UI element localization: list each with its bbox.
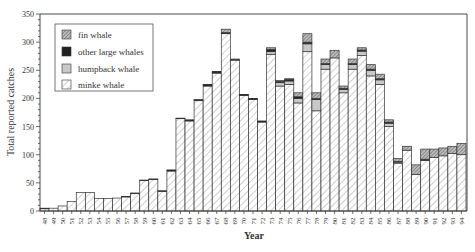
bar-75 xyxy=(285,79,294,211)
x-tick-label: 80 xyxy=(331,217,339,225)
bar-segment xyxy=(339,89,348,92)
legend-swatch-other-large-whales xyxy=(62,47,71,56)
y-tick-label: 250 xyxy=(22,66,34,75)
bar-segment xyxy=(131,194,140,211)
x-tick-label: 94 xyxy=(458,217,466,225)
x-tick-label: 50 xyxy=(59,217,67,225)
bar-segment xyxy=(348,59,357,64)
x-tick-label: 84 xyxy=(367,217,375,225)
bar-segment xyxy=(239,96,248,211)
x-tick-label: 54 xyxy=(95,217,103,225)
bar-segment xyxy=(267,52,276,55)
bar-82 xyxy=(348,59,357,211)
bar-segment xyxy=(375,80,384,85)
x-tick-label: 77 xyxy=(304,217,312,225)
bar-segment xyxy=(40,208,49,209)
bar-61 xyxy=(158,191,167,211)
bar-segment xyxy=(276,83,285,86)
x-tick-label: 88 xyxy=(404,217,412,225)
bar-94 xyxy=(457,143,466,211)
bar-segment xyxy=(212,71,221,72)
bar-segment xyxy=(366,65,375,70)
bar-92 xyxy=(439,148,448,211)
bar-segment xyxy=(176,118,185,119)
bar-54 xyxy=(94,199,103,211)
bar-segment xyxy=(448,146,457,153)
bar-segment xyxy=(321,65,330,70)
bar-segment xyxy=(158,191,167,211)
x-tick-label: 83 xyxy=(358,217,366,225)
x-tick-label: 87 xyxy=(395,217,403,225)
bar-88 xyxy=(403,146,412,211)
bar-55 xyxy=(103,199,112,211)
bar-segment xyxy=(248,98,257,99)
x-tick-label: 73 xyxy=(268,217,276,225)
bar-81 xyxy=(339,86,348,211)
bar-84 xyxy=(366,65,375,211)
bar-segment xyxy=(248,100,257,211)
x-tick-label: 79 xyxy=(322,217,330,225)
bar-segment xyxy=(403,150,412,211)
bar-segment xyxy=(239,94,248,95)
bar-segment xyxy=(67,201,76,211)
x-tick-label: 67 xyxy=(213,217,221,225)
bar-segment xyxy=(149,179,158,211)
bar-segment xyxy=(230,59,239,60)
bar-segment xyxy=(421,149,430,159)
bar-segment xyxy=(113,198,122,211)
bar-86 xyxy=(384,120,393,211)
bar-segment xyxy=(357,51,366,56)
x-tick-label: 61 xyxy=(159,217,167,225)
bar-segment xyxy=(258,121,267,122)
bar-83 xyxy=(357,48,366,211)
bar-segment xyxy=(393,159,402,162)
bar-segment xyxy=(122,196,131,197)
bar-segment xyxy=(439,156,448,211)
bar-segment xyxy=(267,48,276,50)
bar-segment xyxy=(366,70,375,76)
bar-segment xyxy=(412,174,421,211)
x-tick-label: 52 xyxy=(77,217,85,225)
bar-segment xyxy=(430,158,439,211)
bar-segment xyxy=(439,148,448,156)
bar-60 xyxy=(149,179,158,211)
bar-90 xyxy=(421,149,430,211)
x-tick-label: 74 xyxy=(277,217,285,225)
bar-segment xyxy=(384,123,393,126)
bar-segment xyxy=(194,100,203,101)
bar-segment xyxy=(330,51,339,58)
bar-71 xyxy=(248,98,257,211)
x-tick-label: 65 xyxy=(195,217,203,225)
x-tick-label: 92 xyxy=(440,217,448,225)
x-tick-label: 63 xyxy=(177,217,185,225)
bar-segment xyxy=(375,84,384,211)
bar-segment xyxy=(276,86,285,211)
x-tick-label: 64 xyxy=(186,217,194,225)
bar-segment xyxy=(321,59,330,64)
y-tick-label: 50 xyxy=(26,179,34,188)
bar-segment xyxy=(384,127,393,211)
bar-segment xyxy=(321,69,330,211)
bar-segment xyxy=(330,58,339,211)
x-tick-label: 53 xyxy=(86,217,94,225)
x-tick-label: 49 xyxy=(50,217,58,225)
bar-segment xyxy=(149,179,158,180)
x-tick-label: 90 xyxy=(422,217,430,225)
y-axis-title: Total reported catches xyxy=(5,68,16,156)
bar-63 xyxy=(176,118,185,211)
bar-segment xyxy=(421,160,430,211)
bar-segment xyxy=(194,101,203,211)
x-tick-label: 62 xyxy=(168,217,176,225)
bar-segment xyxy=(185,120,194,121)
bar-segment xyxy=(230,60,239,211)
bar-segment xyxy=(167,170,176,171)
bar-segment xyxy=(158,191,167,192)
bar-52 xyxy=(76,192,85,211)
x-tick-label: 81 xyxy=(340,217,348,225)
bar-segment xyxy=(294,93,303,97)
bar-segment xyxy=(403,146,412,150)
x-tick-label: 78 xyxy=(313,217,321,225)
bar-80 xyxy=(330,51,339,211)
x-tick-label: 71 xyxy=(250,217,258,225)
bar-87 xyxy=(393,159,402,211)
